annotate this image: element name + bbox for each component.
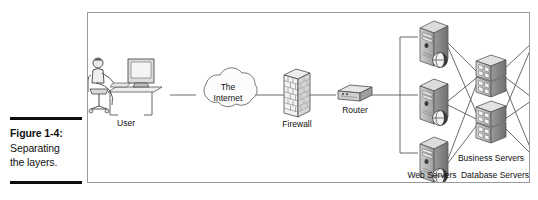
figure-caption-text: Figure 1-4: Separating the layers. — [10, 126, 86, 170]
link-bus-web3 — [400, 95, 418, 153]
group-web-servers — [420, 21, 448, 182]
link-bus-web1 — [400, 37, 418, 95]
label-firewall: Firewall — [282, 119, 311, 129]
node-firewall — [284, 69, 310, 117]
figure-frame: User The Internet — [87, 12, 530, 183]
group-business-servers — [476, 55, 506, 143]
figure-caption-line-3: the layers. — [10, 155, 86, 170]
label-internet-line-1: The — [221, 82, 236, 92]
figure-caption-line-2: Separating — [10, 141, 86, 156]
figure-number-label: Figure 1-4: — [10, 126, 86, 141]
label-business-servers: Business Servers — [458, 153, 524, 163]
label-user: User — [117, 118, 135, 128]
caption-rule-top — [10, 117, 82, 120]
label-database-servers: Database Servers — [461, 170, 529, 180]
business-server-rack-2 — [476, 101, 506, 143]
web-server-1 — [420, 21, 448, 68]
link-web1-biz2 — [448, 47, 480, 121]
node-router — [338, 85, 372, 101]
label-web-servers: Web Servers — [408, 170, 457, 180]
business-server-rack-1 — [476, 55, 506, 97]
web-server-2 — [420, 79, 448, 126]
figure-caption-block: Figure 1-4: Separating the layers. — [0, 0, 86, 200]
label-router: Router — [342, 105, 368, 115]
node-user — [88, 58, 162, 115]
caption-rule-bottom — [10, 181, 82, 184]
link-web2-biz2 — [448, 105, 480, 121]
network-architecture-diagram: User The Internet — [88, 13, 529, 182]
label-internet-line-2: Internet — [214, 93, 243, 103]
